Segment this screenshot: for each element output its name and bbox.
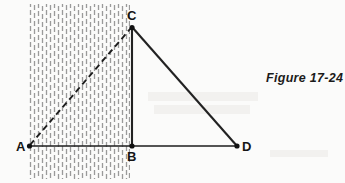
hatched-region <box>31 2 130 181</box>
figure-container: A B C D Figure 17-24 <box>0 0 345 183</box>
vertex-dot-d <box>234 143 239 148</box>
vertex-label-d: D <box>242 140 251 153</box>
vertex-dot-c <box>129 25 134 30</box>
segment-cd <box>132 27 237 146</box>
vertex-dot-a <box>27 143 32 148</box>
vertex-label-a: A <box>16 140 25 153</box>
figure-caption: Figure 17-24 <box>266 71 343 85</box>
vertex-label-b: B <box>127 150 136 163</box>
vertex-dot-b <box>129 143 134 148</box>
geometry-diagram <box>0 0 345 183</box>
segment-ac-dashed <box>30 28 131 145</box>
vertex-label-c: C <box>127 9 136 22</box>
